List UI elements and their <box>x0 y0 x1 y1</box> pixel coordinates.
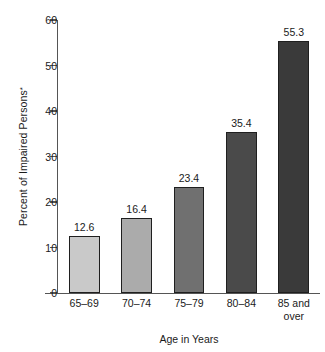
bar-group: 12.6 <box>69 20 100 293</box>
bar[interactable] <box>69 236 100 293</box>
x-axis-category-label: 70–74 <box>110 297 162 310</box>
bar-value-label: 16.4 <box>126 203 146 215</box>
x-axis-category-label: 75–79 <box>163 297 215 310</box>
y-axis-tick-label: 50 <box>13 60 57 72</box>
y-axis-tick-label: 0 <box>13 287 57 299</box>
bar-group: 23.4 <box>174 20 205 293</box>
y-axis-tick-label: 30 <box>13 151 57 163</box>
y-axis-tick-label: 40 <box>13 105 57 117</box>
bar[interactable] <box>278 41 309 293</box>
y-axis-ticks: 0102030405060 <box>0 0 57 352</box>
bar-value-label: 35.4 <box>231 117 251 129</box>
x-axis-category-label-line: 85 and <box>268 297 320 310</box>
bar-group: 16.4 <box>121 20 152 293</box>
bar-group: 55.3 <box>278 20 309 293</box>
x-axis-category-label-line: 70–74 <box>110 297 162 310</box>
bar[interactable] <box>226 132 257 293</box>
x-axis-category-label-line: 65–69 <box>58 297 110 310</box>
x-axis-category-label-line: over <box>268 310 320 323</box>
y-axis-tick-label: 10 <box>13 242 57 254</box>
y-axis-tick-label: 20 <box>13 196 57 208</box>
bar-value-label: 55.3 <box>284 26 304 38</box>
y-axis-tick-label: 60 <box>13 14 57 26</box>
bar-value-label: 23.4 <box>179 172 199 184</box>
plot-area: 12.616.423.435.455.3 <box>58 20 320 293</box>
bar[interactable] <box>174 187 205 293</box>
bar-chart: Percent of Impaired Persons* 01020304050… <box>0 0 325 352</box>
x-axis-category-label-line: 80–84 <box>215 297 267 310</box>
bar[interactable] <box>121 218 152 293</box>
x-axis-category-label: 65–69 <box>58 297 110 310</box>
bar-value-label: 12.6 <box>74 221 94 233</box>
x-axis-category-label: 85 andover <box>268 297 320 322</box>
x-axis-category-label: 80–84 <box>215 297 267 310</box>
bar-group: 35.4 <box>226 20 257 293</box>
x-axis-category-label-line: 75–79 <box>163 297 215 310</box>
x-axis-title: Age in Years <box>58 333 320 345</box>
